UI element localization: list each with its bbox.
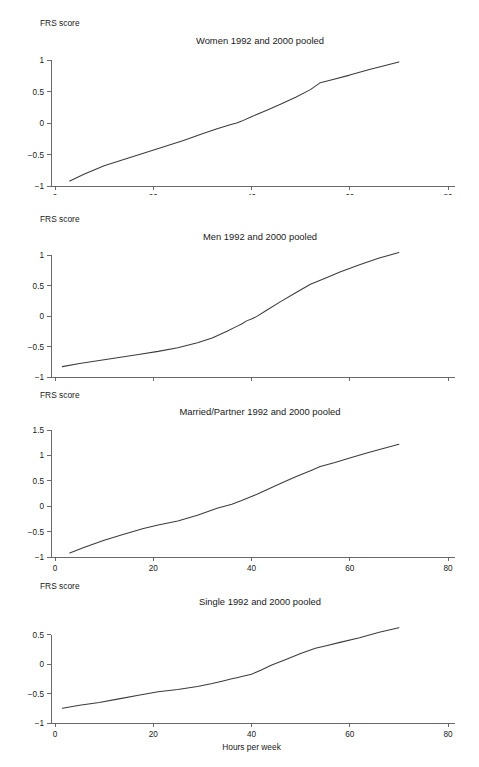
x-tick-label: 0 xyxy=(53,564,58,573)
y-tick-label: −1 xyxy=(35,553,45,562)
multi-panel-figure: FRS scoreWomen 1992 and 2000 pooled−1−0.… xyxy=(0,0,479,767)
panel-title: Married/Partner 1992 and 2000 pooled xyxy=(179,406,340,417)
panel-plot-area: FRS scoreSingle 1992 and 2000 pooled−1−0… xyxy=(0,575,479,767)
data-series-line xyxy=(70,62,399,181)
y-tick-label: 0 xyxy=(39,312,44,321)
data-series-line xyxy=(70,444,399,553)
x-tick-label: 20 xyxy=(149,564,159,573)
x-axis-label: Hours per week xyxy=(222,742,281,752)
y-tick-label: −0.5 xyxy=(28,690,45,699)
chart-panel: FRS scoreMen 1992 and 2000 pooled−1−0.50… xyxy=(0,195,479,385)
y-tick-label: 0.5 xyxy=(33,631,45,640)
x-tick-label: 40 xyxy=(247,730,257,739)
panel-plot-area: FRS scoreMen 1992 and 2000 pooled−1−0.50… xyxy=(0,195,479,385)
y-tick-label: −1 xyxy=(35,182,45,191)
y-tick-label: −1 xyxy=(35,719,45,728)
x-tick-label: 20 xyxy=(149,730,159,739)
chart-panel: FRS scoreMarried/Partner 1992 and 2000 p… xyxy=(0,385,479,575)
y-axis-label: FRS score xyxy=(40,581,80,591)
chart-panel: FRS scoreSingle 1992 and 2000 pooled−1−0… xyxy=(0,575,479,767)
y-tick-label: 1.5 xyxy=(33,426,45,435)
panel-plot-area: FRS scoreWomen 1992 and 2000 pooled−1−0.… xyxy=(0,0,479,195)
y-tick-label: 0.5 xyxy=(33,477,45,486)
x-tick-label: 40 xyxy=(247,564,257,573)
panel-plot-area: FRS scoreMarried/Partner 1992 and 2000 p… xyxy=(0,385,479,575)
y-tick-label: 1 xyxy=(39,251,44,260)
y-tick-label: 0 xyxy=(39,119,44,128)
y-tick-label: −0.5 xyxy=(28,528,45,537)
x-tick-label: 80 xyxy=(443,564,453,573)
y-tick-label: 1 xyxy=(39,56,44,65)
panel-title: Single 1992 and 2000 pooled xyxy=(199,596,321,607)
data-series-line xyxy=(62,253,399,367)
y-axis-label: FRS score xyxy=(40,390,80,400)
y-tick-label: 0.5 xyxy=(33,282,45,291)
y-tick-label: −0.5 xyxy=(28,343,45,352)
x-tick-label: 0 xyxy=(53,730,58,739)
data-series-line xyxy=(62,628,399,709)
y-tick-label: 0 xyxy=(39,502,44,511)
panel-title: Men 1992 and 2000 pooled xyxy=(203,231,317,242)
x-tick-label: 60 xyxy=(345,564,355,573)
chart-panel: FRS scoreWomen 1992 and 2000 pooled−1−0.… xyxy=(0,0,479,195)
x-tick-label: 80 xyxy=(443,730,453,739)
y-tick-label: 0.5 xyxy=(33,88,45,97)
y-tick-label: −1 xyxy=(35,373,45,382)
y-tick-label: 1 xyxy=(39,451,44,460)
y-axis-label: FRS score xyxy=(40,18,80,28)
y-axis-label: FRS score xyxy=(40,214,80,224)
panel-title: Women 1992 and 2000 pooled xyxy=(196,35,324,46)
x-tick-label: 60 xyxy=(345,730,355,739)
y-tick-label: 0 xyxy=(39,660,44,669)
y-tick-label: −0.5 xyxy=(28,151,45,160)
